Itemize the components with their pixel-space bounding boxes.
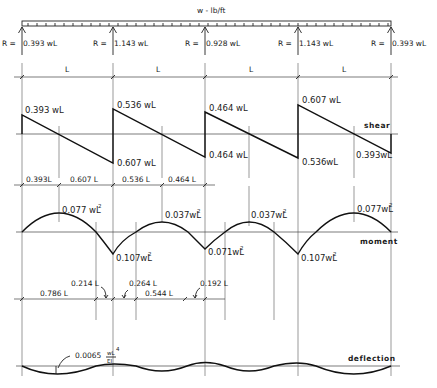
svg-text:0.214 L: 0.214 L [71,279,100,288]
svg-text:0.544 L: 0.544 L [145,289,174,298]
svg-text:0.264 L: 0.264 L [129,279,158,288]
deflection-diagram: 0.0065 wL 4 EI deflection [16,346,400,374]
svg-text:2: 2 [283,208,287,214]
reactions: R = 0.393 wL R = 1.143 wL R = 0.928 wL R… [2,27,427,55]
load-ticks [28,23,388,26]
svg-text:0.192 L: 0.192 L [200,279,229,288]
span-dimensions: L L L L [14,65,398,79]
svg-text:wL: wL [107,350,115,356]
svg-text:4: 4 [116,346,120,352]
reaction-2: R = 1.143 wL [93,27,149,55]
svg-text:0.536wL: 0.536wL [302,157,338,167]
svg-text:0.107wL: 0.107wL [116,253,152,263]
deflection-max: 0.0065 [75,351,101,360]
svg-text:2: 2 [389,202,393,208]
svg-text:0.464 wL: 0.464 wL [209,150,248,160]
svg-text:2: 2 [98,203,102,209]
svg-text:0.536 wL: 0.536 wL [117,100,156,110]
svg-text:0.393L: 0.393L [26,175,52,184]
svg-text:0.077wL: 0.077wL [357,204,393,214]
svg-text:2: 2 [333,251,337,257]
reaction-value: 0.393 wL [392,39,427,48]
svg-text:2: 2 [240,245,244,251]
svg-text:R =: R = [278,39,292,48]
shear-diagram: 0.393 wL 0.536 wL 0.607 wL 0.464 wL 0.46… [14,95,398,187]
reaction-3: R = 0.928 wL [185,27,241,55]
svg-text:0.607 L: 0.607 L [70,175,99,184]
svg-text:0.393wL: 0.393wL [356,150,392,160]
svg-text:2: 2 [197,208,201,214]
svg-text:0.536 L: 0.536 L [122,175,151,184]
reaction-4: R = 1.143 wL [278,27,334,55]
svg-text:R =: R = [371,39,385,48]
svg-text:0.077 wL: 0.077 wL [62,205,101,215]
continuous-beam-diagram: w - lb/ft R = 0.393 wL R = 1.143 wL R = … [0,0,437,388]
svg-text:0.464 wL: 0.464 wL [209,103,248,113]
svg-text:0.107wL: 0.107wL [301,253,337,263]
svg-text:0.037wL: 0.037wL [165,210,201,220]
reaction-value: 0.928 wL [206,39,241,48]
reaction-5: R = 0.393 wL [371,27,427,55]
svg-text:0.786 L: 0.786 L [40,289,69,298]
reaction-value: 1.143 wL [299,39,334,48]
svg-text:0.393 wL: 0.393 wL [25,105,64,115]
load-label: w - lb/ft [197,6,225,15]
span-label: L [342,65,347,74]
distributed-load: w - lb/ft [22,6,391,26]
moment-tag: moment [360,237,398,246]
svg-text:0.037wL: 0.037wL [251,210,287,220]
svg-text:EI: EI [107,358,112,364]
span-label: L [65,65,70,74]
span-label: L [249,65,254,74]
moment-diagram: 0.077 wL 2 0.037wL 2 0.037wL 2 0.077wL 2… [14,186,398,320]
svg-text:0.607 wL: 0.607 wL [117,158,156,168]
svg-text:R =: R = [2,39,16,48]
reaction-1: R = 0.393 wL [2,27,58,55]
support-guides [22,63,391,376]
svg-text:2: 2 [148,251,152,257]
svg-text:0.464 L: 0.464 L [168,175,197,184]
svg-text:0.607 wL: 0.607 wL [302,95,341,105]
span-label: L [156,65,161,74]
beam [22,21,391,26]
reaction-value: 1.143 wL [114,39,149,48]
reaction-value: 0.393 wL [23,39,58,48]
svg-text:R =: R = [93,39,107,48]
svg-text:0.071wL: 0.071wL [208,247,244,257]
svg-text:R =: R = [185,39,199,48]
shear-tag: shear [364,121,390,130]
deflection-tag: deflection [348,354,395,363]
